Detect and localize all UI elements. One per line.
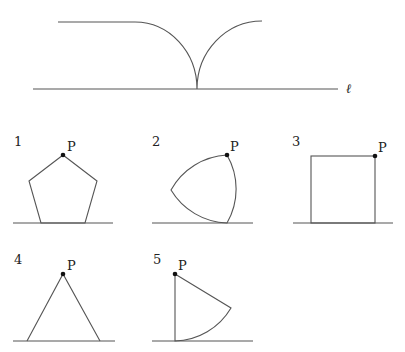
figure-5: 5 P [152,252,253,341]
figure-2-number: 2 [152,134,160,149]
point-p-icon [61,153,66,158]
figure-4-point-label: P [67,258,76,273]
figure-4-number: 4 [14,252,22,267]
point-p-icon [61,272,66,277]
figure-1-point-label: P [67,139,76,154]
figure-4: 4 P [13,252,115,341]
square-shape [311,156,375,223]
triangle-shape [27,274,100,341]
figure-1: 1 P [13,134,113,223]
reuleaux-shape [171,155,236,223]
figure-1-number: 1 [14,134,22,149]
point-p-icon [225,153,230,158]
figure-3-number: 3 [292,134,300,149]
diagram-canvas: ℓ 1 P 2 P 3 P 4 P 5 P [0,0,405,352]
pentagon-shape [29,155,97,223]
point-p-icon [173,272,178,277]
figure-3-point-label: P [378,140,387,155]
point-p-icon [373,154,378,159]
figure-5-point-label: P [178,258,187,273]
figure-5-number: 5 [153,252,161,267]
sector-shape [175,274,231,341]
figure-3: 3 P [292,134,393,223]
figure-2-point-label: P [230,139,239,154]
locus-curve [58,21,262,89]
figure-2: 2 P [152,134,253,223]
line-l-label: ℓ [346,81,352,96]
